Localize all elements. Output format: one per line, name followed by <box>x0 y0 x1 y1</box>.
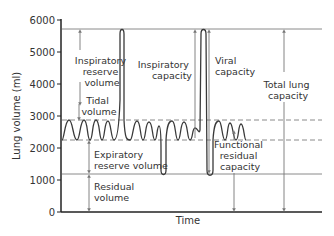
y-tick-6000: 6000 <box>30 15 55 26</box>
lung-volume-chart: 6000 5000 4000 3000 2000 1000 0 Lung vol… <box>0 0 334 236</box>
x-axis-label: Time <box>175 215 200 226</box>
y-tick-0: 0 <box>49 207 55 218</box>
y-axis: 6000 5000 4000 3000 2000 1000 0 Lung vol… <box>11 15 61 218</box>
x-axis: Time <box>61 212 322 226</box>
label-frc: Functional residual capacity <box>214 139 266 172</box>
y-tick-1000: 1000 <box>30 175 55 186</box>
label-erv: Expiratory reserve volume <box>94 149 168 171</box>
y-axis-label: Lung volume (ml) <box>11 72 22 160</box>
label-rv: Residual volume <box>94 181 137 203</box>
label-tv: Tidal volume <box>81 95 116 117</box>
label-tlc: Total lung capacity <box>263 79 313 101</box>
y-tick-4000: 4000 <box>30 79 55 90</box>
y-tick-2000: 2000 <box>30 143 55 154</box>
label-irv: Inspiratory reserve volume <box>75 55 129 88</box>
label-vc: Viral capacity <box>215 55 255 77</box>
label-ic: Inspiratory capacity <box>138 59 193 81</box>
y-tick-3000: 3000 <box>30 111 55 122</box>
y-tick-5000: 5000 <box>30 47 55 58</box>
